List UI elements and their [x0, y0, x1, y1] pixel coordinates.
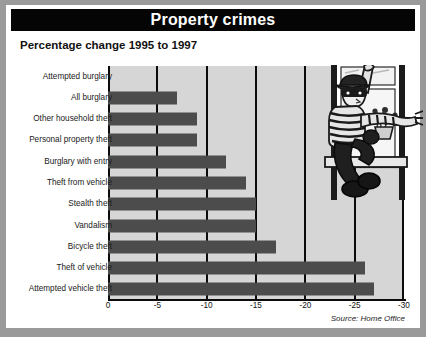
category-label: Attempted burglary [43, 73, 112, 81]
chart-title-bar: Property crimes [11, 9, 415, 31]
category-label: Vandalism [74, 221, 112, 229]
category-label: Bicycle theft [68, 243, 112, 251]
source-attribution: Source: Home Office [331, 315, 405, 323]
category-label: Attempted vehicle theft [29, 285, 112, 293]
category-label: Burglary with entry [44, 158, 112, 166]
bar [108, 134, 197, 147]
x-tick-label: -20 [299, 302, 311, 310]
bar [108, 240, 276, 253]
x-tick-label: -25 [349, 302, 361, 310]
category-label: All burglary [71, 94, 112, 102]
chart-card: Percentage change 1995 to 1997 Attempted… [11, 31, 415, 327]
figure-container: Property crimes Percentage change 1995 t… [0, 0, 426, 337]
bar [108, 219, 256, 232]
bar [108, 262, 365, 275]
x-tick-label: -30 [398, 302, 410, 310]
bar [108, 91, 177, 104]
x-tick-label: -15 [250, 302, 262, 310]
bar [108, 283, 374, 296]
x-tick-label: -5 [154, 302, 161, 310]
bar [108, 155, 226, 168]
category-label: Other household theft [33, 115, 112, 123]
category-label: Personal property theft [29, 136, 112, 144]
category-label: Theft of vehicle [56, 264, 112, 272]
category-label: Theft from vehicle [47, 179, 112, 187]
page-title: Property crimes [11, 9, 415, 31]
chart-subtitle: Percentage change 1995 to 1997 [20, 39, 197, 51]
x-tick-label: -10 [201, 302, 213, 310]
bar [108, 177, 246, 190]
category-label: Stealth theft [68, 200, 112, 208]
bar-chart: Attempted burglaryAll burglaryOther hous… [11, 63, 415, 325]
x-tick-label: 0 [106, 302, 111, 310]
bar [108, 113, 197, 126]
bar [108, 198, 256, 211]
